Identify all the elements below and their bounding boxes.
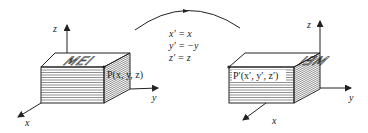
left-box-group: z y x xyxy=(18,23,158,128)
left-x-label: x xyxy=(24,117,30,128)
left-point-p xyxy=(102,65,105,68)
equation-y: y′ = −y xyxy=(168,40,199,51)
left-front-hatching xyxy=(41,70,104,100)
left-point-label: P(x, y, z) xyxy=(107,69,143,81)
right-x-label: x xyxy=(271,115,277,126)
arc-arrowhead-icon xyxy=(183,9,189,13)
right-point-p-prime xyxy=(227,65,230,68)
right-top-text-group: MEI xyxy=(293,54,333,68)
left-y-axis xyxy=(130,88,158,89)
right-y-label: y xyxy=(348,92,354,103)
left-top-text-group: MEI xyxy=(59,54,99,68)
left-y-label: y xyxy=(151,92,157,103)
transformation-group: x′ = x y′ = −y z′ = z xyxy=(135,9,240,63)
left-top-text: MEI xyxy=(59,54,99,68)
equation-x: x′ = x xyxy=(168,28,192,39)
left-x-axis xyxy=(18,103,41,117)
right-x-axis xyxy=(243,103,266,120)
equation-z: z′ = z xyxy=(168,52,191,63)
right-z-label: z xyxy=(306,19,311,30)
right-point-label: P′(x′, y′, z′) xyxy=(233,70,278,82)
diagram-canvas: z y x xyxy=(0,0,368,133)
right-box-group: z y x xyxy=(227,19,354,126)
right-top-text: MEI xyxy=(293,54,333,68)
left-z-label: z xyxy=(52,23,57,34)
